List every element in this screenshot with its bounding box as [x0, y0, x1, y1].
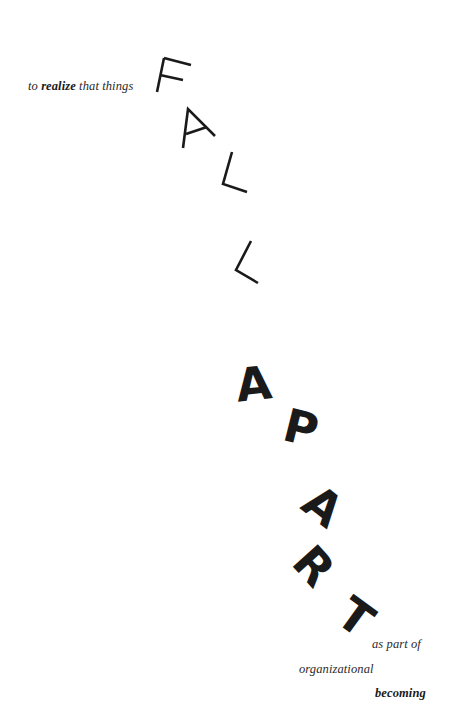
- apart-letter-p: P: [279, 402, 323, 455]
- intro-emphasis: realize: [41, 79, 76, 93]
- intro-before: to: [28, 79, 41, 93]
- outro-line-3: becoming: [375, 686, 426, 701]
- intro-after: that things: [76, 79, 133, 93]
- fall-letter-l1: L: [210, 150, 270, 210]
- intro-text: to realize that things: [28, 79, 133, 94]
- apart-letter-a1: A: [234, 359, 274, 408]
- typographic-poster: to realize that things F A L L A P A R T: [0, 0, 449, 726]
- apart-letter-r: R: [285, 537, 343, 594]
- outro-emphasis: becoming: [375, 686, 426, 700]
- fall-letter-l2: L: [225, 235, 285, 295]
- outro-line-1: as part of: [372, 637, 421, 652]
- apart-letter-a2: A: [295, 477, 351, 535]
- outro-line-2: organizational: [299, 662, 374, 677]
